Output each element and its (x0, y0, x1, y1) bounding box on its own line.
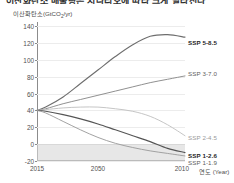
y-tick-label: 140 (23, 23, 34, 30)
series-line-ssp-3-7-0 (37, 76, 185, 111)
series-line-ssp-1-2-6 (37, 110, 185, 152)
emissions-scenario-chart: 이산화탄소 배출량은 시나리오에 따라 크게 달라진다 이산화탄소(GtCO2/… (0, 0, 234, 183)
x-tick-label: 2010 (175, 165, 189, 172)
y-axis-caption-main: 이산화탄소(GtCO (13, 10, 61, 17)
y-tick-label: -20 (25, 158, 34, 165)
series-line-ssp-1-1-9 (37, 110, 185, 156)
series-line-ssp-2-4-5 (37, 107, 185, 136)
y-tick-label: 100 (23, 56, 34, 63)
y-tick-label: 20 (27, 124, 34, 131)
series-label-ssp-5-8-5: SSP 5-8.5 (188, 39, 217, 46)
chart-title-cutoff: 이산화탄소 배출량은 시나리오에 따라 크게 달라진다 (0, 0, 234, 4)
y-axis-caption: 이산화탄소(GtCO2/yr) (13, 9, 72, 19)
series-lines (37, 22, 185, 161)
y-tick-label: 0 (30, 141, 34, 148)
x-tick-label: 2050 (91, 165, 105, 172)
x-tick-label: 2015 (30, 165, 44, 172)
y-tick-mark (35, 161, 38, 162)
chart-title-text: 이산화탄소 배출량은 시나리오에 따라 크게 달라진다 (0, 0, 234, 4)
gridline (37, 161, 185, 162)
x-axis-caption: 연도 (Year) (199, 167, 229, 176)
series-label-ssp-1-1-9: SSP 1-1.9 (188, 158, 217, 165)
series-line-ssp-5-8-5 (37, 35, 185, 111)
y-axis-caption-tail: /yr) (63, 10, 72, 17)
y-tick-label: 120 (23, 40, 34, 47)
series-label-ssp-3-7-0: SSP 3-7.0 (188, 69, 217, 76)
series-label-ssp-2-4-5: SSP 2-4.5 (188, 133, 217, 140)
y-tick-label: 40 (27, 107, 34, 114)
plot-area: -20020406080100120140 201520502010 (37, 22, 185, 161)
series-label-ssp-1-2-6: SSP 1-2.6 (188, 151, 217, 158)
y-tick-label: 60 (27, 90, 34, 97)
y-tick-label: 80 (27, 73, 34, 80)
